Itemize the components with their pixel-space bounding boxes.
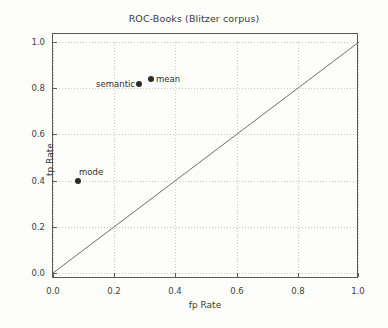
data-region: semantic mean mode	[53, 42, 359, 273]
chance-diagonal-line	[53, 42, 359, 273]
y-axis-label: tp Rate	[45, 143, 55, 176]
x-tick-label: 0.4	[168, 286, 182, 296]
y-tick	[53, 227, 57, 228]
y-tick-label: 0.0	[31, 268, 45, 278]
y-tick-label: 0.4	[31, 176, 45, 186]
data-point-mean[interactable]	[148, 76, 154, 82]
chart-title: ROC-Books (Blitzer corpus)	[0, 13, 388, 24]
y-tick	[53, 134, 57, 135]
data-point-semantic[interactable]	[136, 81, 142, 87]
x-tick	[237, 273, 238, 277]
x-tick-label: 0.0	[46, 286, 60, 296]
y-tick-label: 0.8	[31, 83, 45, 93]
y-tick	[53, 88, 57, 89]
data-point-mode[interactable]	[75, 178, 81, 184]
x-axis-label: fp Rate	[52, 300, 358, 310]
y-tick	[53, 42, 57, 43]
x-tick-label: 0.8	[291, 286, 305, 296]
data-point-label-mean: mean	[156, 74, 180, 84]
y-tick-label: 0.2	[31, 222, 45, 232]
x-tick-label: 1.0	[351, 286, 365, 296]
data-point-label-mode: mode	[79, 167, 103, 177]
y-tick-label: 1.0	[31, 37, 45, 47]
x-tick	[358, 273, 359, 277]
roc-chart-figure: ROC-Books (Blitzer corpus) semantic	[0, 0, 388, 328]
x-tick	[298, 273, 299, 277]
y-tick	[53, 181, 57, 182]
x-tick-label: 0.2	[107, 286, 121, 296]
x-tick	[175, 273, 176, 277]
x-tick	[114, 273, 115, 277]
y-tick-label: 0.6	[31, 129, 45, 139]
plot-area: semantic mean mode 0.0 0.2 0.4 0.6 0.8 1…	[52, 33, 358, 278]
y-tick	[53, 273, 57, 274]
data-point-label-semantic: semantic	[96, 79, 135, 89]
x-tick-label: 0.6	[230, 286, 244, 296]
gridline-horizontal	[53, 273, 359, 274]
